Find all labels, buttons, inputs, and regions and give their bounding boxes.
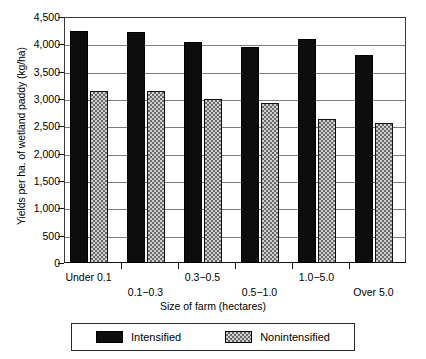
bar-intensified bbox=[241, 47, 259, 263]
bar-intensified bbox=[298, 39, 316, 263]
y-axis-tick-label: 1,500 bbox=[6, 175, 60, 187]
x-axis-tick-mark bbox=[349, 263, 350, 269]
x-axis-tick-mark bbox=[121, 263, 122, 269]
y-axis-tick-label: 3,000 bbox=[6, 93, 60, 105]
legend-label-nonintensified: Nonintensified bbox=[260, 331, 330, 343]
bars-container bbox=[64, 17, 406, 263]
x-axis-category-label: Over 5.0 bbox=[353, 286, 393, 298]
y-axis-tick-label: 4,500 bbox=[6, 11, 60, 23]
legend-item-intensified: Intensified bbox=[96, 331, 181, 343]
y-axis-tick-label: 500 bbox=[6, 230, 60, 242]
bar-nonintensified bbox=[90, 91, 108, 263]
bar-nonintensified bbox=[261, 103, 279, 263]
x-axis-category-label: 0.5−1.0 bbox=[242, 286, 277, 298]
y-axis-tick-label: 2,500 bbox=[6, 120, 60, 132]
y-axis-tick-label: 0 bbox=[6, 257, 60, 269]
x-axis-category-label: 0.1−0.3 bbox=[128, 286, 163, 298]
y-axis-tick-mark bbox=[58, 263, 64, 264]
bar-intensified bbox=[127, 32, 145, 263]
chart-legend: Intensified Nonintensified bbox=[71, 323, 355, 351]
x-axis-tick-mark bbox=[292, 263, 293, 269]
bar-nonintensified bbox=[204, 99, 222, 263]
y-axis-tick-label: 3,500 bbox=[6, 66, 60, 78]
x-axis-title: Size of farm (hectares) bbox=[0, 300, 426, 312]
bar-nonintensified bbox=[375, 123, 393, 263]
x-axis-tick-mark bbox=[235, 263, 236, 269]
x-axis-category-label: 1.0−5.0 bbox=[299, 271, 334, 283]
y-axis-tick-label: 1,000 bbox=[6, 202, 60, 214]
bar-intensified bbox=[184, 42, 202, 263]
y-axis-tick-label: 4,000 bbox=[6, 38, 60, 50]
x-axis-category-label: 0.3−0.5 bbox=[185, 271, 220, 283]
x-axis-tick-mark bbox=[178, 263, 179, 269]
bar-intensified bbox=[355, 55, 373, 263]
y-axis-tick-label: 2,000 bbox=[6, 148, 60, 160]
legend-swatch-nonintensified bbox=[225, 331, 252, 343]
legend-label-intensified: Intensified bbox=[131, 331, 181, 343]
bar-nonintensified bbox=[147, 91, 165, 263]
x-axis-category-label: Under 0.1 bbox=[65, 271, 111, 283]
bar-intensified bbox=[70, 31, 88, 263]
bar-chart-figure: Yields per ha. of wetland paddy (kg/ha) … bbox=[0, 0, 426, 359]
legend-item-nonintensified: Nonintensified bbox=[225, 331, 330, 343]
bar-nonintensified bbox=[318, 119, 336, 263]
legend-swatch-intensified bbox=[96, 331, 123, 343]
